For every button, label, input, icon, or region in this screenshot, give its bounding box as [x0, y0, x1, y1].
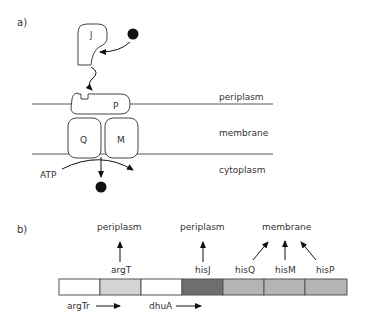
gene-label-hism: hisM [275, 265, 296, 275]
ligand-dot-top [128, 29, 139, 40]
protein-p-shape [71, 93, 130, 114]
protein-j-label: J [89, 31, 92, 40]
segment-argtr [59, 279, 100, 295]
segment-dhua [141, 279, 182, 295]
segment-hism [264, 279, 305, 295]
protein-m-label: M [117, 135, 125, 145]
transfer-arrow [89, 67, 96, 90]
segment-argt [100, 279, 141, 295]
hisq-arrow [253, 242, 268, 260]
gene-label-dhua: dhuA [149, 301, 173, 311]
membrane-location-label: membrane [262, 222, 312, 232]
segment-hisq [223, 279, 264, 295]
gene-label-hisj: hisJ [195, 265, 211, 275]
protein-p-label: P [113, 101, 119, 111]
atp-label: ATP [40, 170, 57, 180]
diagram-canvas: a) J P Q M ATP periplasm membrane cytopl… [0, 0, 366, 325]
ligand-dot-bottom [96, 182, 107, 193]
cytoplasm-label: cytoplasm [219, 165, 266, 175]
segment-hisp [305, 279, 347, 295]
hisp-arrow [301, 242, 316, 260]
membrane-label: membrane [219, 128, 269, 138]
segment-hisj [182, 279, 223, 295]
hisj-location-label: periplasm [180, 222, 225, 232]
protein-q-label: Q [80, 135, 87, 145]
periplasm-label: periplasm [219, 92, 264, 102]
gene-label-hisq: hisQ [235, 265, 255, 275]
argt-location-label: periplasm [97, 222, 142, 232]
gene-label-hisp: hisP [316, 265, 335, 275]
operon-bar [59, 279, 347, 295]
gene-label-argt: argT [111, 265, 132, 275]
gene-label-argtr: argTr [67, 301, 90, 311]
protein-j-shape [78, 24, 107, 65]
atp-hydrolysis-arrow [62, 160, 133, 170]
panel-a-label: a) [17, 17, 27, 28]
panel-b-label: b) [17, 224, 27, 235]
